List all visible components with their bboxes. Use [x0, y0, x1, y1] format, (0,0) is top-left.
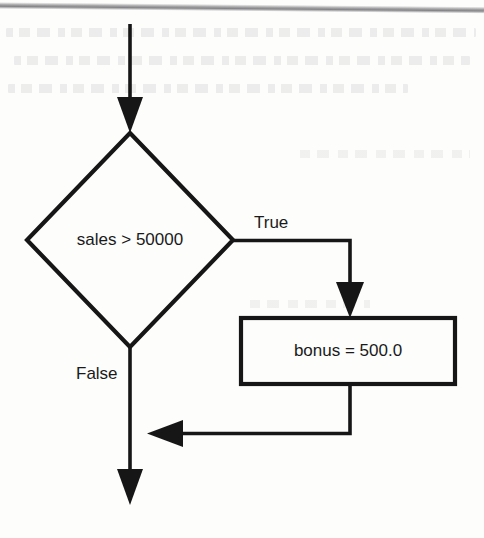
edge-false-arrow	[117, 347, 143, 505]
edge-label-false: False	[76, 364, 118, 383]
edge-label-true: True	[254, 213, 288, 232]
flowchart-page: sales > 50000 bonus = 500.0 True False	[0, 0, 484, 538]
edge-merge-arrow	[147, 384, 350, 447]
edge-true-arrow	[233, 241, 364, 319]
decision-node-label: sales > 50000	[77, 230, 183, 249]
flowchart-canvas: sales > 50000 bonus = 500.0 True False	[0, 0, 484, 538]
edge-entry-arrow	[117, 24, 143, 133]
process-node-label: bonus = 500.0	[294, 341, 402, 360]
